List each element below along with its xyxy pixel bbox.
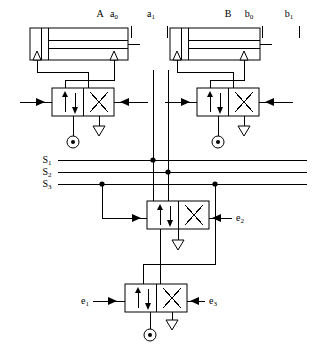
sensor-b0-label: b0 (245, 8, 254, 21)
signal-bus: S1 S2 S3 (42, 154, 307, 191)
cylinder-a (30, 28, 140, 60)
piping-cylinder-b (177, 60, 244, 88)
cylinder-a-labels: A a0 a1 (96, 8, 167, 38)
pneumatic-circuit-diagram: A a0 a1 B b0 b1 (0, 0, 313, 344)
sensor-a1-label: a1 (147, 8, 155, 21)
master-valve-b[interactable] (165, 88, 293, 148)
signal-e1-label: e1 (81, 295, 89, 308)
signal-e2-label: e2 (236, 212, 244, 225)
signal-line-s3-label: S3 (42, 178, 52, 191)
piping-cylinder-a (37, 60, 114, 88)
signal-e3-label: e3 (209, 295, 217, 308)
riser-s3-left (102, 184, 147, 218)
cylinder-b-label: B (225, 8, 232, 19)
cylinder-b (170, 28, 272, 60)
sensor-b1-label: b1 (285, 8, 294, 21)
cylinder-b-labels: B b0 b1 (225, 8, 299, 38)
cascade-valve-lower[interactable]: e1 e3 (81, 284, 217, 341)
vertical-risers (102, 70, 215, 218)
sensor-a0-label: a0 (110, 8, 118, 21)
link-right-to-lower (143, 218, 215, 284)
cylinder-a-label: A (96, 8, 104, 19)
cascade-valve-upper[interactable]: e2 (132, 201, 244, 284)
master-valve-a[interactable] (20, 88, 148, 148)
circuit-canvas: A a0 a1 B b0 b1 (0, 0, 313, 344)
